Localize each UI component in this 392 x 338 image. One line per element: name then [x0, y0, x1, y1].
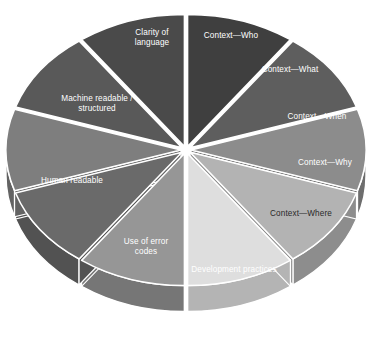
pie-chart-canvas [0, 0, 392, 338]
pie-chart-figure: Context—WhoContext—WhatContext—WhenConte… [0, 0, 392, 338]
pie-slice-tops [6, 14, 366, 285]
